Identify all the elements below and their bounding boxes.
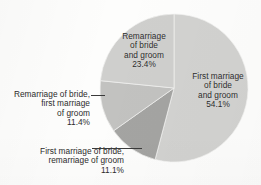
slice-label-first-bride-remarriage-groom: First marriage of bride, remarriage of g…	[2, 137, 124, 175]
slice-label-first-bride-remarriage-groom-percent: 11.1%	[101, 165, 124, 175]
leader-line-first-bride-remarriage-groom	[92, 148, 142, 149]
slice-label-first-both: First marriage of bride and groom 54.1%	[182, 62, 254, 110]
slice-label-first-both-text: First marriage of bride and groom	[192, 71, 243, 100]
pie-chart-figure: Remarriage of bride and groom 23.4% Firs…	[0, 0, 261, 185]
slice-label-remarriage-both: Remarriage of bride and groom 23.4%	[110, 22, 178, 70]
slice-label-remarriage-bride-first-groom-text: Remarriage of bride, first marriage of g…	[14, 89, 90, 118]
slice-label-remarriage-both-percent: 23.4%	[132, 59, 156, 69]
leader-line-remarriage-bride-first-groom	[91, 95, 105, 96]
slice-label-remarriage-both-text: Remarriage of bride and groom	[122, 31, 166, 60]
slice-label-remarriage-bride-first-groom-percent: 11.4%	[67, 117, 90, 127]
slice-label-first-both-percent: 54.1%	[206, 99, 230, 109]
slice-label-remarriage-bride-first-groom: Remarriage of bride, first marriage of g…	[2, 80, 90, 128]
